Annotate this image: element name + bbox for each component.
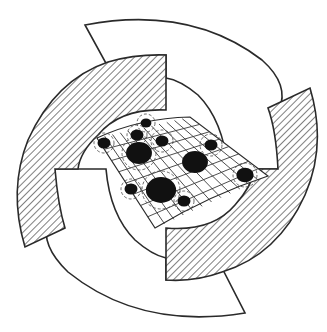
dark-blob [141, 118, 152, 127]
dark-blob [182, 151, 208, 173]
dark-blob [98, 137, 111, 148]
dark-blob [156, 135, 169, 146]
dark-blob [126, 142, 152, 164]
dark-blob [236, 168, 253, 183]
dark-blob [146, 177, 176, 203]
dark-blob [205, 139, 218, 150]
dark-blob [125, 183, 138, 194]
dark-blob [178, 195, 191, 206]
pinwheel-grid-diagram [0, 0, 327, 332]
dark-blob [131, 129, 144, 140]
